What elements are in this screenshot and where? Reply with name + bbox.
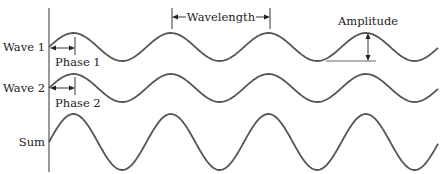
arrow-left-icon — [172, 15, 178, 20]
amplitude-marker — [326, 33, 376, 61]
wave-diagram: Wave 1 Wave 2 Sum Phase 1 Phase 2 — [0, 0, 440, 174]
phase-2-marker — [50, 77, 75, 95]
wave-diagram-canvas: Wave 1 Wave 2 Sum Phase 1 Phase 2 — [0, 0, 440, 174]
wave-1-curve — [49, 33, 438, 61]
phase-1-marker — [50, 37, 75, 55]
wavelength-label: Wavelength — [187, 10, 256, 24]
sum-label: Sum — [19, 135, 45, 149]
phase-2-label: Phase 2 — [55, 96, 101, 110]
arrow-right-icon — [69, 86, 75, 91]
amplitude-label: Amplitude — [337, 14, 398, 28]
wave-2-label: Wave 2 — [3, 81, 45, 95]
arrow-down-icon — [366, 55, 371, 61]
phase-1-label: Phase 1 — [55, 55, 101, 69]
arrow-right-icon — [264, 15, 270, 20]
arrow-right-icon — [69, 46, 75, 51]
sum-curve — [49, 114, 438, 170]
wave-2-curve — [49, 74, 438, 102]
wave-1-label: Wave 1 — [3, 40, 45, 54]
